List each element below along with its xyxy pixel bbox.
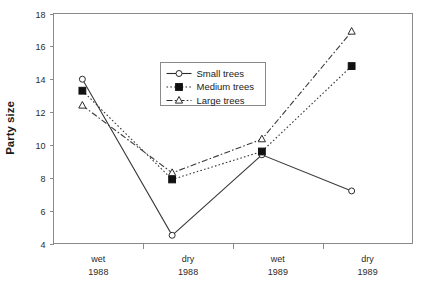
data-point-marker: [169, 169, 176, 176]
line-chart: 4681012141618 wet1988dry1988wet1989dry19…: [0, 0, 421, 285]
y-tick-label: 12: [35, 108, 45, 118]
data-point-marker: [258, 148, 265, 155]
y-axis-title: Party size: [4, 101, 16, 155]
x-tick-label-year: 1988: [178, 267, 198, 277]
legend-marker: [176, 84, 183, 91]
x-tick-label-year: 1988: [88, 267, 108, 277]
data-point-marker: [79, 102, 86, 109]
legend-label: Medium trees: [197, 81, 255, 92]
legend-label: Small trees: [197, 68, 245, 79]
y-tick-label: 6: [40, 207, 45, 217]
series-layer: [79, 28, 355, 239]
plot-frame: [54, 14, 413, 244]
legend-marker: [176, 71, 182, 77]
data-point-marker: [258, 135, 265, 142]
x-tick-label-season: wet: [90, 254, 106, 264]
plot-border: [54, 14, 413, 244]
x-tick-label-season: dry: [182, 254, 195, 264]
chart-figure: 4681012141618 wet1988dry1988wet1989dry19…: [0, 0, 421, 285]
y-tick-label: 18: [35, 10, 45, 20]
data-point-marker: [169, 176, 176, 183]
x-tick-label-year: 1989: [268, 267, 288, 277]
y-tick-label: 8: [40, 174, 45, 184]
data-point-marker: [348, 63, 355, 70]
data-point-marker: [169, 232, 175, 238]
y-tick-label: 14: [35, 75, 45, 85]
data-point-marker: [79, 76, 85, 82]
y-axis-ticks: 4681012141618: [35, 10, 53, 250]
y-tick-label: 10: [35, 141, 45, 151]
data-point-marker: [79, 87, 86, 94]
y-tick-label: 4: [40, 240, 45, 250]
chart-legend[interactable]: Small treesMedium treesLarge trees: [161, 63, 266, 106]
x-tick-label-season: wet: [270, 254, 286, 264]
data-point-marker: [348, 28, 355, 35]
y-tick-label: 16: [35, 42, 45, 52]
x-axis-ticks: wet1988dry1988wet1989dry1989: [88, 244, 377, 277]
legend-label: Large trees: [197, 95, 245, 106]
x-tick-label-year: 1989: [358, 267, 378, 277]
x-tick-label-season: dry: [361, 254, 374, 264]
data-point-marker: [349, 188, 355, 194]
